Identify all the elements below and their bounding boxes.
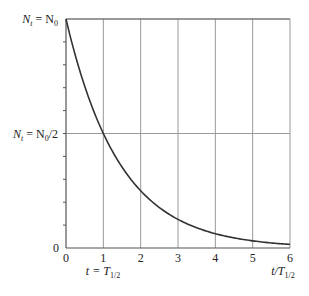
decay-chart: Nt = N0 Nt = N0/2 0 0123456 t = T1/2 t/T…: [0, 0, 309, 296]
y-label-top: Nt = N0: [21, 12, 58, 28]
x-tick-label: 0: [63, 251, 69, 265]
x-tick-label: 1: [100, 251, 106, 265]
x-axis-label: t/T1/2: [271, 264, 295, 280]
t-equals-half-life-label: t = T1/2: [86, 264, 120, 280]
y-label-half: Nt = N0/2: [12, 127, 58, 143]
grid-lines: [66, 19, 290, 248]
y-label-zero: 0: [53, 241, 59, 255]
x-tick-label: 2: [138, 251, 144, 265]
x-tick-label: 3: [175, 251, 181, 265]
x-tick-label: 5: [250, 251, 256, 265]
x-tick-label: 6: [287, 251, 293, 265]
x-tick-label: 4: [212, 251, 218, 265]
x-tick-labels: 0123456: [63, 251, 293, 265]
